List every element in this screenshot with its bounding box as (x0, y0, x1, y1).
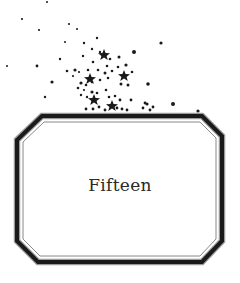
octagon-frame-icon (0, 0, 240, 283)
chapter-title: Fifteen (0, 175, 240, 195)
